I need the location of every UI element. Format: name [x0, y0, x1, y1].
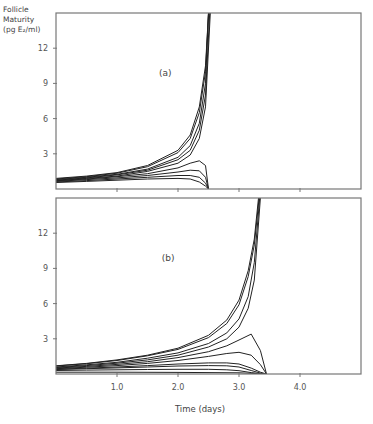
x-tick-label: 3.0 [233, 383, 246, 392]
curve-b9 [56, 369, 267, 374]
panel-b: 369121.02.03.04.0(b) [38, 198, 361, 392]
curve-b2 [56, 198, 259, 366]
panel-a: 36912(a) [38, 13, 361, 192]
y-tick-label: 6 [43, 115, 48, 124]
curve-a5 [56, 13, 210, 181]
y-tick-label: 12 [38, 44, 48, 53]
y-tick-label: 3 [43, 335, 48, 344]
curve-a6 [56, 161, 209, 189]
y-tick-label: 9 [43, 264, 48, 273]
y-tick-label: 6 [43, 300, 48, 309]
curve-b3 [56, 198, 260, 367]
y-tick-label: 3 [43, 150, 48, 159]
curve-b4 [56, 198, 260, 368]
curve-a4 [56, 13, 210, 180]
panel-label: (a) [159, 68, 172, 78]
curve-b1 [56, 198, 259, 366]
x-axis-title: Time (days) [174, 404, 225, 414]
x-tick-label: 4.0 [294, 383, 307, 392]
x-tick-label: 1.0 [111, 383, 124, 392]
y-tick-label: 9 [43, 79, 48, 88]
curve-a3 [56, 13, 209, 180]
panel-label: (b) [162, 253, 175, 263]
figure: 36912(a) 369121.02.03.04.0(b) Time (days… [0, 0, 373, 424]
plot-frame [56, 198, 361, 374]
x-tick-label: 2.0 [172, 383, 185, 392]
y-tick-label: 12 [38, 229, 48, 238]
